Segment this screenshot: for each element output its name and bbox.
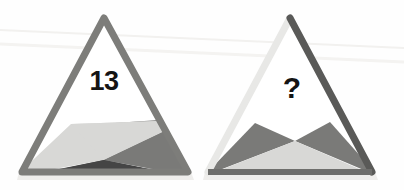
background-scanlines — [0, 30, 404, 62]
scanline-lower — [0, 44, 404, 62]
left-triangle-label: 13 — [89, 66, 119, 96]
puzzle-illustration: 13 — [0, 0, 404, 190]
right-triangle-label: ? — [283, 71, 301, 104]
left-triangle-figure[interactable]: 13 — [10, 10, 200, 180]
right-triangle-figure[interactable]: ? — [200, 10, 384, 180]
puzzle-canvas: 13 — [0, 0, 404, 190]
